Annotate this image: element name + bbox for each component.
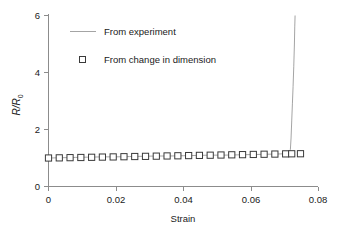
y-axis-title-main: R/R [11,98,22,115]
data-marker [89,154,95,160]
data-marker [229,152,235,158]
svg-text:R/R0: R/R0 [11,94,24,115]
data-marker [56,155,62,161]
data-marker [186,152,192,158]
data-marker [250,151,256,157]
legend-label-dimension: From change in dimension [104,54,216,65]
data-marker [110,154,116,160]
y-axis-title-subscript: 0 [17,94,24,98]
data-marker [207,152,213,158]
x-tick-label-008: 0.08 [309,194,328,205]
x-tick-label-006: 0.06 [242,194,261,205]
data-marker [289,151,295,157]
x-tick-label-002: 0.02 [107,194,126,205]
data-marker [196,152,202,158]
legend-label-experiment: From experiment [104,26,176,37]
x-tick-label-004: 0.04 [174,194,193,205]
data-marker [283,151,289,157]
y-tick-label-6: 6 [35,10,40,21]
y-axis-title: R/R0 [11,94,24,115]
series-from-change-in-dimension [45,151,303,161]
x-axis-title: Strain [171,213,196,224]
data-marker [272,151,278,157]
data-marker [239,152,245,158]
data-marker [99,154,105,160]
data-marker [45,155,51,161]
legend-marker-square [80,57,86,63]
data-marker [175,153,181,159]
y-tick-label-2: 2 [35,124,40,135]
data-marker [261,151,267,157]
y-tick-label-4: 4 [35,67,40,78]
data-marker [218,152,224,158]
data-marker [132,153,138,159]
data-marker [153,153,159,159]
data-marker [67,155,73,161]
data-marker [78,154,84,160]
y-tick-label-0: 0 [35,181,40,192]
chart-figure: 0 2 4 6 0 0.02 0.04 0.06 0.08 Strain R/R… [0,0,340,242]
chart-plot-area: 0 2 4 6 0 0.02 0.04 0.06 0.08 Strain R/R… [0,0,340,242]
x-tick-label-0: 0 [46,194,51,205]
data-marker [142,153,148,159]
x-axis-ticks: 0 0.02 0.04 0.06 0.08 [46,187,327,206]
data-marker [164,153,170,159]
y-axis-ticks: 0 2 4 6 [35,10,49,192]
data-marker [121,154,127,160]
data-marker [297,151,303,157]
chart-legend: From experiment From change in dimension [70,26,216,65]
